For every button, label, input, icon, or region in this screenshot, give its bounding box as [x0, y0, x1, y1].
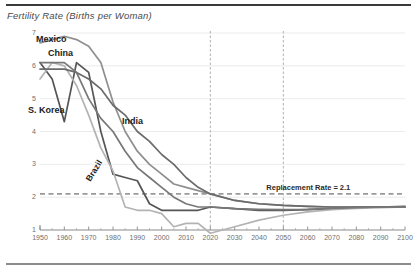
y-axis-tick-label: 7 [22, 29, 36, 36]
bottom-divider [6, 263, 411, 265]
page-title: Fertility Rate (Births per Woman) [7, 10, 152, 21]
chart-svg [22, 33, 405, 242]
y-axis-tick-label: 5 [22, 95, 36, 102]
replacement-rate-label: Replacement Rate = 2.1 [266, 183, 350, 192]
y-axis-tick-label: 1 [22, 226, 36, 233]
y-axis-tick-label: 3 [22, 160, 36, 167]
x-axis-tick-label: 2100 [390, 234, 417, 241]
y-axis-tick-label: 6 [22, 62, 36, 69]
chart-page: Fertility Rate (Births per Woman) 765432… [0, 0, 417, 270]
top-divider [6, 4, 411, 6]
y-axis-tick-label: 4 [22, 128, 36, 135]
plot-area [22, 33, 405, 242]
series-label-s-korea: S. Korea [28, 105, 65, 115]
series-label-china: China [48, 48, 73, 58]
series-label-mexico: Mexico [36, 34, 67, 44]
y-axis-tick-label: 2 [22, 193, 36, 200]
series-label-india: India [122, 116, 143, 126]
